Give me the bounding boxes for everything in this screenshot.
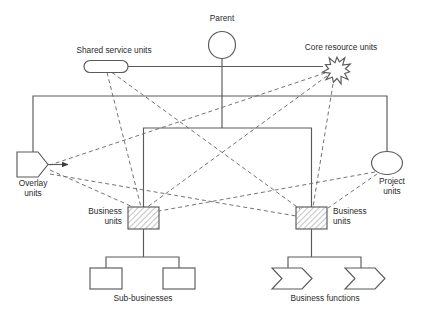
overlay-units-label-line1: Overlay	[19, 178, 48, 188]
overlay-units-label-line2: units	[24, 188, 42, 198]
org-structure-diagram: Parent Shared service units Core resourc…	[0, 0, 424, 317]
business-function-chevron-2[interactable]	[345, 268, 385, 289]
dashed-overlay-to-business-unit-right	[50, 174, 296, 216]
shared-service-units-stadium-icon[interactable]	[84, 61, 128, 73]
connector-business-functions-bracket	[288, 257, 361, 268]
business-units-left-label-line1: Business	[88, 206, 122, 216]
business-units-right-label-line1: Business	[333, 206, 367, 216]
project-units-label-line2: units	[383, 186, 401, 196]
business-units-right-box-icon[interactable]	[296, 207, 327, 229]
node-overlay-units[interactable]: Overlay units	[17, 152, 68, 198]
parent-circle-icon[interactable]	[209, 32, 236, 59]
overlay-units-pentagon-icon[interactable]	[17, 152, 48, 177]
diagram-canvas: Parent Shared service units Core resourc…	[0, 0, 424, 317]
core-resource-units-starburst-icon[interactable]	[323, 57, 351, 84]
parent-label: Parent	[210, 13, 235, 23]
node-core-resource-units[interactable]: Core resource units	[305, 42, 377, 84]
connector-inner-bracket	[144, 128, 312, 207]
dashed-connection-group	[50, 73, 377, 217]
node-business-units-left[interactable]: Business units	[88, 206, 159, 229]
project-units-label-line1: Project	[379, 176, 406, 186]
sub-business-box-1[interactable]	[90, 268, 122, 289]
connector-sub-businesses-bracket	[106, 257, 179, 268]
dashed-overlay-to-business-unit-left	[50, 170, 133, 207]
node-parent[interactable]: Parent	[209, 13, 236, 59]
node-sub-businesses[interactable]: Sub-businesses	[90, 268, 195, 303]
sub-business-box-2[interactable]	[163, 268, 195, 289]
node-shared-service-units[interactable]: Shared service units	[76, 45, 151, 73]
node-business-units-right[interactable]: Business units	[296, 206, 367, 229]
sub-businesses-label: Sub-businesses	[113, 293, 172, 303]
dashed-project-to-business-unit-right	[328, 174, 377, 208]
solid-connection-group	[33, 59, 387, 269]
dashed-core-to-business-unit-right	[313, 84, 333, 207]
core-resource-units-label: Core resource units	[305, 42, 377, 52]
dashed-shared-to-business-unit-right	[112, 73, 300, 210]
dashed-core-to-overlay	[50, 73, 325, 165]
business-units-right-label-line2: units	[333, 216, 351, 226]
business-units-left-label-line2: units	[104, 216, 122, 226]
business-units-left-box-icon[interactable]	[128, 207, 159, 229]
project-units-ellipse-icon[interactable]	[372, 152, 403, 175]
node-business-functions[interactable]: Business functions	[272, 268, 385, 303]
business-functions-label: Business functions	[290, 293, 359, 303]
shared-service-units-label: Shared service units	[76, 45, 151, 55]
business-function-chevron-1[interactable]	[272, 268, 312, 289]
